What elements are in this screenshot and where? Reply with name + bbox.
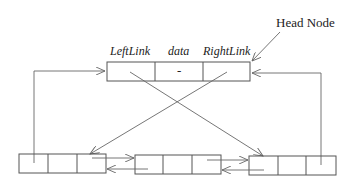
rightlink-label: RightLink <box>202 44 251 58</box>
head-node: - <box>107 62 250 81</box>
head-rightlink-to-first-node-arrow <box>90 72 227 154</box>
head-node-data-value: - <box>177 63 181 78</box>
data-label: data <box>168 44 189 58</box>
list-node-1 <box>19 154 106 173</box>
list-node-2 <box>135 155 221 174</box>
leftlink-label: LeftLink <box>109 44 151 58</box>
linked-list-diagram: Head Node LeftLink data RightLink - <box>0 0 354 187</box>
wrap-link-left <box>34 71 105 163</box>
head-leftlink-to-last-node-arrow <box>130 72 263 156</box>
head-node-label: Head Node <box>276 15 335 30</box>
list-node-3 <box>249 156 336 175</box>
head-node-pointer-arrow <box>252 32 280 61</box>
wrap-link-right <box>252 73 321 165</box>
